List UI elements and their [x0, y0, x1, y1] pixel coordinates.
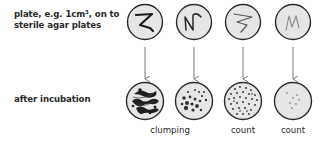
incubation-arrows [145, 47, 293, 79]
streaked-plate-3 [226, 5, 261, 40]
streaked-plate-2 [177, 5, 212, 40]
incubated-plate-2-clumping [176, 83, 213, 120]
streaked-plate-1 [128, 5, 163, 40]
streaked-plate-4 [276, 5, 311, 40]
caption-clumping: clumping [150, 125, 190, 135]
caption-count-plate-4: count [281, 125, 305, 135]
incubated-plate-3-count [225, 83, 262, 120]
incubated-plate-4-count [275, 83, 312, 120]
incubated-plate-1-clumping [127, 83, 164, 120]
dilution-plating-diagram [0, 0, 336, 142]
caption-count-plate-3: count [231, 125, 255, 135]
